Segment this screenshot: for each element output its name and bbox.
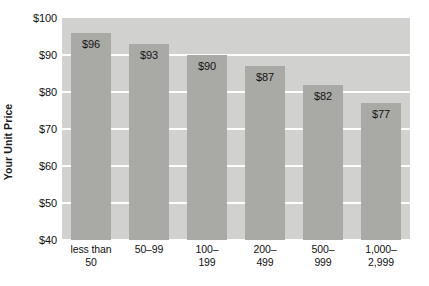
x-axis-category-labels: less than5050–99100–199200–499500–9991,0… [62,243,410,286]
bar: $93 [129,44,169,240]
x-axis-label-line1: 200– [254,243,277,255]
x-axis-label-line1: less than [70,243,111,255]
y-axis-tick-100: $100 [33,12,57,24]
y-axis-tick-40: $40 [39,234,57,246]
bars-layer: $96$93$90$87$82$77 [62,18,410,240]
x-axis-label-line2: 999 [294,256,352,269]
x-axis-label-line2: 499 [236,256,294,269]
bar-value-label: $93 [129,49,169,61]
x-axis-label-5: 1,000–2,999 [352,243,410,269]
x-axis-label-line2: 2,999 [352,256,410,269]
bar-group: $96 [71,18,111,240]
x-axis-label-line2: 199 [178,256,236,269]
y-axis-title: Your Unit Price [0,0,16,286]
y-axis-tick-70: $70 [39,123,57,135]
y-axis-tick-60: $60 [39,160,57,172]
bar: $77 [361,103,401,240]
plot-area: $96$93$90$87$82$77 [62,18,410,240]
x-axis-label-line2: 50 [62,256,120,269]
x-axis-label-1: 50–99 [120,243,178,256]
x-axis-label-line1: 100– [196,243,219,255]
x-axis-label-4: 500–999 [294,243,352,269]
bar-value-label: $90 [187,60,227,72]
y-axis-tick-labels: $40$50$60$70$80$90$100 [18,18,60,240]
x-axis-label-line1: 50–99 [135,243,164,255]
x-axis-label-3: 200–499 [236,243,294,269]
x-axis-label-line1: 1,000– [365,243,397,255]
y-axis-tick-80: $80 [39,86,57,98]
bar-value-label: $96 [71,38,111,50]
y-axis-tick-50: $50 [39,197,57,209]
bar: $90 [187,55,227,240]
bar: $96 [71,33,111,240]
bar-value-label: $82 [303,90,343,102]
bar-value-label: $87 [245,71,285,83]
bar-group: $87 [245,18,285,240]
bar-value-label: $77 [361,108,401,120]
x-axis-label-2: 100–199 [178,243,236,269]
bar: $82 [303,85,343,240]
bar-chart: Your Unit Price $40$50$60$70$80$90$100 $… [0,0,429,286]
x-axis-label-line1: 500– [312,243,335,255]
x-axis-label-0: less than50 [62,243,120,269]
y-axis-title-label: Your Unit Price [2,104,14,181]
bar-group: $93 [129,18,169,240]
y-axis-tick-90: $90 [39,49,57,61]
bar-group: $90 [187,18,227,240]
bar-group: $77 [361,18,401,240]
bar-group: $82 [303,18,343,240]
bar: $87 [245,66,285,240]
